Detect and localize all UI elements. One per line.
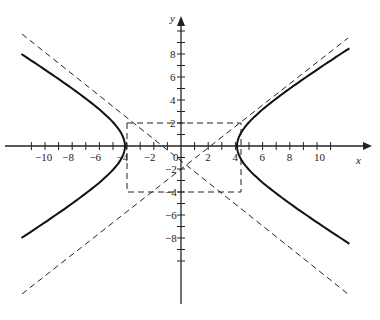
- x-arrow-icon: [363, 142, 372, 150]
- svg-text:−2: −2: [165, 163, 177, 175]
- svg-text:8: 8: [287, 151, 293, 163]
- svg-text:−10: −10: [35, 151, 53, 163]
- svg-text:−8: −8: [165, 232, 177, 244]
- y-axis-label: y: [169, 12, 175, 24]
- svg-text:−6: −6: [165, 209, 177, 221]
- svg-text:0: 0: [173, 151, 179, 163]
- svg-text:10: 10: [314, 151, 326, 163]
- svg-text:−2: −2: [144, 151, 156, 163]
- svg-text:6: 6: [260, 151, 266, 163]
- svg-text:8: 8: [170, 48, 176, 60]
- svg-text:2: 2: [205, 151, 211, 163]
- svg-text:−6: −6: [89, 151, 101, 163]
- svg-text:−8: −8: [62, 151, 74, 163]
- svg-text:4: 4: [170, 94, 176, 106]
- svg-text:6: 6: [170, 71, 176, 83]
- y-arrow-icon: [177, 16, 185, 26]
- x-axis-label: x: [355, 154, 361, 166]
- hyperbola-plot: −10−8−6−4−20246810 8642−2−4−6−8 x y: [0, 0, 380, 320]
